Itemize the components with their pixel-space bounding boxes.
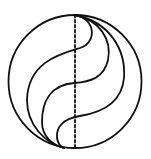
s-curve-outer xyxy=(57,15,124,148)
circle-s-curves-diagram xyxy=(0,0,151,159)
